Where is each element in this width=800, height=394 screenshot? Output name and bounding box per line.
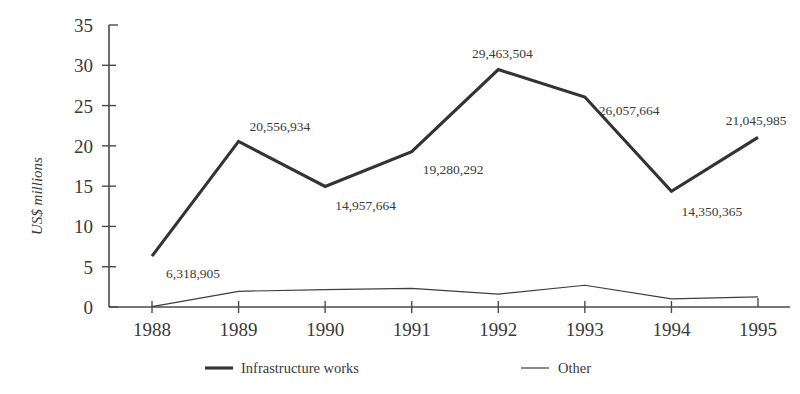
- data-point-label: 26,057,664: [599, 103, 660, 118]
- y-tick-label: 5: [84, 257, 94, 278]
- x-tick-label: 1993: [566, 319, 604, 340]
- line-chart: 05101520253035 1988198919901991199219931…: [0, 0, 800, 394]
- y-tick-label: 35: [74, 15, 93, 36]
- data-point-label: 21,045,985: [726, 113, 787, 128]
- data-point-label: 14,350,365: [681, 204, 742, 219]
- y-tick-label: 0: [84, 297, 94, 318]
- x-tick-label: 1992: [479, 319, 517, 340]
- y-tick-label: 25: [74, 96, 93, 117]
- x-tick-label: 1988: [133, 319, 171, 340]
- y-tick-label: 15: [74, 176, 93, 197]
- legend-label-infrastructure-works: Infrastructure works: [241, 360, 359, 376]
- y-axis-title: US$ millions: [29, 157, 45, 235]
- y-tick-label: 30: [74, 55, 93, 76]
- data-point-label: 20,556,934: [250, 119, 311, 134]
- data-point-label: 6,318,905: [166, 266, 220, 281]
- chart-svg: 05101520253035 1988198919901991199219931…: [0, 0, 800, 394]
- x-tick-label: 1991: [393, 319, 431, 340]
- data-point-label: 19,280,292: [423, 162, 484, 177]
- y-tick-label: 10: [74, 216, 93, 237]
- data-point-label: 14,957,664: [335, 198, 396, 213]
- legend-label-other: Other: [558, 360, 591, 376]
- data-point-label: 29,463,504: [472, 46, 533, 61]
- x-tick-label: 1994: [652, 319, 691, 340]
- x-tick-label: 1989: [220, 319, 258, 340]
- x-tick-label: 1990: [306, 319, 344, 340]
- x-tick-label: 1995: [739, 319, 777, 340]
- y-tick-label: 20: [74, 136, 93, 157]
